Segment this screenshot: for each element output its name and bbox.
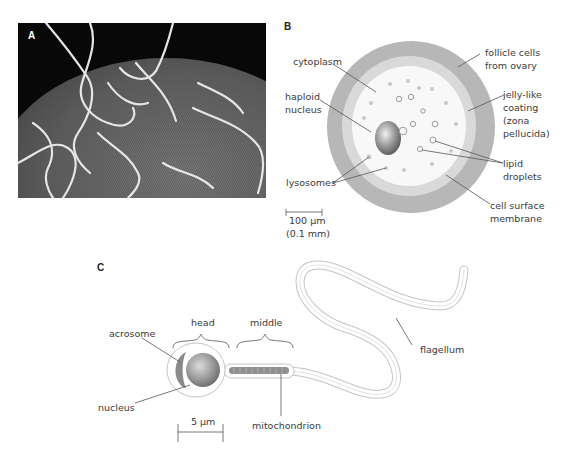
- label-membrane-1: cell surface: [490, 199, 544, 212]
- haploid-nucleus: [375, 121, 401, 155]
- label-jelly-4: pellucida): [503, 127, 550, 140]
- label-jelly-2: coating: [503, 101, 538, 114]
- label-jelly-3: (zona: [503, 114, 529, 127]
- panel-c-letter: C: [97, 262, 104, 273]
- sperm-nucleus: [186, 353, 220, 387]
- label-membrane-2: membrane: [490, 212, 542, 225]
- label-nucleus-c: nucleus: [98, 401, 135, 414]
- cytoplasm-area: [352, 66, 466, 186]
- label-haploid: haploid: [285, 90, 320, 103]
- label-middle: middle: [250, 316, 282, 329]
- label-cytoplasm: cytoplasm: [293, 55, 342, 68]
- label-mitochondrion: mitochondrion: [252, 419, 321, 432]
- sperm-cell: [167, 265, 464, 397]
- mitochondrion-shape: [229, 367, 289, 374]
- diagram-graphics: [0, 0, 564, 450]
- scale-c-value: 5 μm: [191, 415, 215, 428]
- label-lysosomes: lysosomes: [286, 176, 336, 189]
- label-follicle-1: follicle cells: [485, 46, 540, 59]
- egg-cell: [327, 41, 495, 213]
- label-nucleus-b: nucleus: [285, 103, 322, 116]
- label-lipid-2: droplets: [503, 170, 542, 183]
- label-flagellum: flagellum: [420, 343, 464, 356]
- scale-b-value: 100 μm: [289, 214, 325, 227]
- label-follicle-2: from ovary: [485, 59, 537, 72]
- label-jelly-1: jelly-like: [503, 88, 542, 101]
- scale-b-alt: (0.1 mm): [286, 227, 330, 240]
- label-head: head: [191, 316, 215, 329]
- label-acrosome: acrosome: [109, 327, 155, 340]
- label-lipid-1: lipid: [503, 157, 523, 170]
